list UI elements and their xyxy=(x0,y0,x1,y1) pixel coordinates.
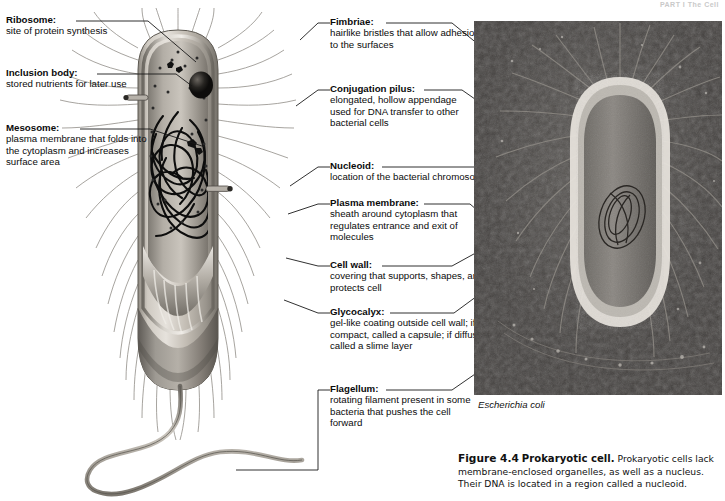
running-header: PART I The Cell xyxy=(660,1,719,8)
photo-caption: Escherichia coli xyxy=(478,399,545,410)
callout-term: Plasma membrane: xyxy=(330,197,419,208)
callout-fimbriae: Fimbriae: hairlike bristles that allow a… xyxy=(330,16,480,50)
callout-term: Glycocalyx: xyxy=(330,306,384,317)
callout-desc: covering that supports, shapes, and prot… xyxy=(330,270,483,292)
callout-cell-wall: Cell wall: covering that supports, shape… xyxy=(330,259,488,293)
callout-term: Cell wall: xyxy=(330,259,372,270)
callout-term: Nucleoid: xyxy=(330,160,374,171)
callout-desc: sheath around cytoplasm that regulates e… xyxy=(330,208,458,242)
callout-desc: site of protein synthesis xyxy=(6,25,107,36)
callout-conjugation-pilus: Conjugation pilus: elongated, hollow app… xyxy=(330,83,480,129)
callout-term: Mesosome: xyxy=(6,122,59,133)
figure-caption: Figure 4.4 Prokaryotic cell. Prokaryotic… xyxy=(458,452,720,491)
callout-nucleoid: Nucleoid: location of the bacterial chro… xyxy=(330,160,490,183)
inclusion-body xyxy=(189,72,213,99)
callout-term: Flagellum: xyxy=(330,383,378,394)
callout-ribosome: Ribosome: site of protein synthesis xyxy=(6,14,156,37)
flagellum xyxy=(87,386,302,494)
callout-term: Inclusion body: xyxy=(6,67,78,78)
callout-flagellum: Flagellum: rotating filament present in … xyxy=(330,383,480,429)
figure-page: PART I The Cell xyxy=(0,0,725,501)
micrograph-photo xyxy=(474,21,722,395)
callout-inclusion-body: Inclusion body: stored nutrients for lat… xyxy=(6,67,156,90)
micrograph-image xyxy=(474,21,722,395)
callout-mesosome: Mesosome: plasma membrane that folds int… xyxy=(6,122,156,168)
callout-term: Conjugation pilus: xyxy=(330,83,415,94)
callout-desc: hairlike bristles that allow adhesion to… xyxy=(330,27,480,49)
callout-glycocalyx: Glycocalyx: gel-like coating outside cel… xyxy=(330,306,486,352)
callout-desc: gel-like coating outside cell wall; if c… xyxy=(330,317,485,351)
callout-desc: elongated, hollow appendage used for DNA… xyxy=(330,94,459,128)
callout-desc: rotating filament present in some bacter… xyxy=(330,394,471,428)
callout-desc: location of the bacterial chromosome xyxy=(330,171,488,182)
flagellum-outline xyxy=(87,386,302,494)
callout-plasma-membrane: Plasma membrane: sheath around cytoplasm… xyxy=(330,197,488,243)
callout-desc: stored nutrients for later use xyxy=(6,78,127,89)
callout-term: Fimbriae: xyxy=(330,16,374,27)
callout-term: Ribosome: xyxy=(6,14,56,25)
figure-number: Figure 4.4 xyxy=(458,452,519,464)
figure-title: Prokaryotic cell. xyxy=(522,453,615,464)
callout-desc: plasma membrane that folds into the cyto… xyxy=(6,133,147,167)
